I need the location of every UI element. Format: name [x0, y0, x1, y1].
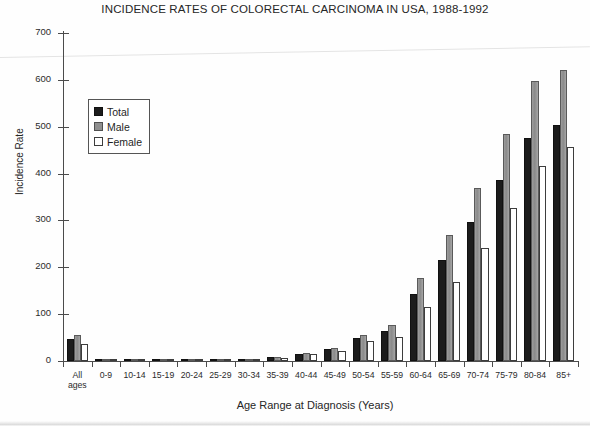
plot-area: 0100200300400500600700 [63, 33, 578, 361]
y-axis-tick-label: 500 [35, 120, 51, 131]
bar-female [195, 359, 202, 361]
x-axis-tick [578, 361, 579, 367]
y-axis-tick: 400 [58, 174, 69, 175]
y-axis-tick-label: 400 [35, 167, 51, 178]
bar-total [353, 338, 360, 361]
x-axis-category-label: 70-74 [467, 370, 489, 380]
bar-female [281, 358, 288, 361]
y-axis-tick-label: 0 [46, 354, 51, 365]
x-axis-tick [235, 361, 236, 367]
bar-male [160, 359, 167, 361]
bar-male [531, 81, 538, 361]
x-axis-category-label: 75-79 [495, 370, 517, 380]
y-axis-tick-label: 700 [35, 26, 51, 37]
legend-label-total: Total [107, 106, 129, 118]
bar-female [481, 248, 488, 361]
x-axis-tick [435, 361, 436, 367]
bar-female [253, 359, 260, 361]
x-axis-tick [263, 361, 264, 367]
x-axis-category-label: 80-84 [524, 370, 546, 380]
y-axis-tick-label: 200 [35, 260, 51, 271]
chart-page: INCIDENCE RATES OF COLORECTAL CARCINOMA … [0, 0, 590, 426]
bar-total [295, 354, 302, 361]
x-axis-category-label: 65-69 [438, 370, 460, 380]
bar-female [81, 344, 88, 361]
bar-male [388, 325, 395, 361]
x-axis-tick [549, 361, 550, 367]
x-axis-label: Age Range at Diagnosis (Years) [0, 399, 590, 411]
x-axis-tick [177, 361, 178, 367]
y-axis-tick-label: 300 [35, 213, 51, 224]
bar-female [424, 307, 431, 361]
x-axis-category-label: 55-59 [381, 370, 403, 380]
x-axis-category-label: 50-54 [352, 370, 374, 380]
bar-male [102, 359, 109, 361]
scan-artifact-bottom [0, 421, 590, 426]
x-axis-tick [521, 361, 522, 367]
bar-total [238, 359, 245, 361]
bar-male [560, 70, 567, 361]
x-axis-category-label: 45-49 [324, 370, 346, 380]
bar-total [67, 339, 74, 361]
bar-total [381, 331, 388, 361]
legend-item-total: Total [94, 104, 142, 119]
x-axis-tick [206, 361, 207, 367]
x-axis-category-label: 10-14 [123, 370, 145, 380]
bar-female [310, 354, 317, 361]
x-axis-tick [464, 361, 465, 367]
y-axis-tick: 300 [58, 220, 69, 221]
bar-total [124, 359, 131, 361]
x-axis-category-label: 15-19 [152, 370, 174, 380]
legend-swatch-total-icon [94, 107, 103, 116]
bar-total [152, 359, 159, 361]
x-axis-tick [406, 361, 407, 367]
y-axis-tick: 100 [58, 314, 69, 315]
y-axis-tick-label: 600 [35, 73, 51, 84]
x-axis-tick [92, 361, 93, 367]
bar-female [138, 359, 145, 361]
x-axis-tick [492, 361, 493, 367]
x-axis-category-label: 85+ [556, 370, 571, 380]
y-axis-tick: 500 [58, 127, 69, 128]
bar-total [410, 294, 417, 361]
y-axis-tick: 200 [58, 267, 69, 268]
bar-male [303, 353, 310, 361]
legend-item-female: Female [94, 134, 142, 149]
x-axis-category-label: All ages [68, 370, 87, 390]
bar-total [438, 260, 445, 361]
y-axis-tick: 600 [58, 80, 69, 81]
y-axis-tick-label: 100 [35, 307, 51, 318]
x-axis-category-label: 25-29 [209, 370, 231, 380]
bar-male [274, 357, 281, 361]
bar-male [217, 359, 224, 361]
x-axis-tick [349, 361, 350, 367]
bar-female [567, 147, 574, 361]
chart-title: INCIDENCE RATES OF COLORECTAL CARCINOMA … [0, 3, 590, 15]
legend-label-male: Male [107, 121, 130, 133]
x-axis-category-label: 35-39 [266, 370, 288, 380]
bar-total [467, 222, 474, 361]
bar-female [110, 359, 117, 361]
x-axis-category-label: 0-9 [100, 370, 113, 380]
bar-total [181, 359, 188, 361]
x-axis-category-label: 60-64 [410, 370, 432, 380]
x-axis-tick [378, 361, 379, 367]
bar-male [360, 335, 367, 361]
legend-item-male: Male [94, 119, 142, 134]
bar-male [131, 359, 138, 361]
bar-male [503, 134, 510, 361]
bar-male [474, 188, 481, 361]
y-axis-label: Incidence Rate [14, 128, 25, 195]
x-axis-tick [63, 361, 64, 367]
bar-female [539, 166, 546, 361]
bar-male [245, 359, 252, 361]
y-axis-tick: 700 [58, 33, 69, 34]
bar-total [524, 138, 531, 361]
x-axis-category-label: 20-24 [181, 370, 203, 380]
bar-female [167, 359, 174, 361]
bar-total [553, 125, 560, 361]
bar-male [331, 348, 338, 361]
legend-swatch-male-icon [94, 122, 103, 131]
bar-female [453, 282, 460, 361]
chart-legend: Total Male Female [88, 99, 150, 154]
